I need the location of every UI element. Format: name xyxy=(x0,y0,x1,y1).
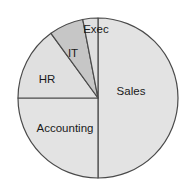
pie-slices-group xyxy=(18,18,178,178)
pie-slice-sales xyxy=(98,18,178,178)
pie-label-sales: Sales xyxy=(117,85,146,97)
pie-slice-accounting xyxy=(18,98,98,178)
pie-label-accounting: Accounting xyxy=(37,122,94,134)
pie-chart-figure: SalesAccountingHRITExec xyxy=(0,0,192,196)
pie-chart-canvas: SalesAccountingHRITExec xyxy=(0,0,192,196)
pie-label-exec: Exec xyxy=(83,23,109,35)
pie-label-hr: HR xyxy=(39,73,56,85)
pie-label-it: IT xyxy=(68,47,78,59)
